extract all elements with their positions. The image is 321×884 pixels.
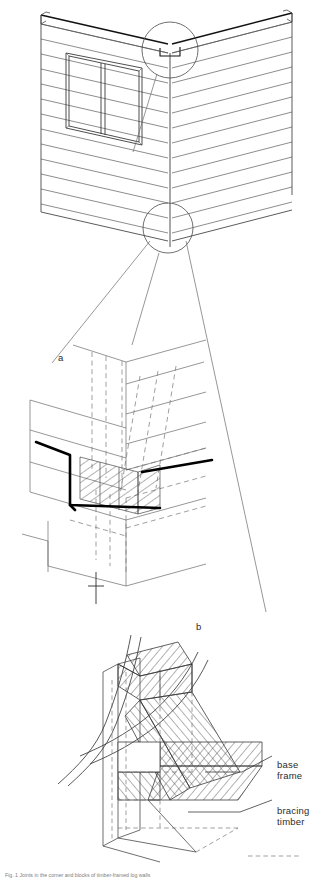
- leader-line-bracing-timber: [188, 800, 272, 812]
- figure-technical-drawing: a b base frame bracing timber Fig. 1 Joi…: [0, 0, 321, 884]
- right-face-log-courses: [172, 22, 292, 233]
- window-opening: [66, 53, 142, 145]
- detail-b-base-outline: [103, 800, 196, 862]
- leader-line-lower-left: [52, 241, 150, 363]
- right-face-bottom-edge: [172, 210, 292, 241]
- base-frame-label: base frame: [277, 760, 302, 781]
- drawing-canvas: [0, 0, 321, 884]
- bracing-timber-label: bracing timber: [277, 806, 310, 827]
- panel-detail-b: [58, 635, 300, 862]
- panel-detail-a: [22, 340, 212, 604]
- leader-line-upper-circle: [133, 74, 157, 152]
- window-frame-shading: [66, 53, 142, 145]
- leader-line-lower-right: [186, 241, 266, 612]
- detail-callout-circle-b: [143, 203, 193, 253]
- wall-top-cap: [41, 13, 292, 44]
- detail-label-b: b: [196, 621, 201, 632]
- detail-a-thin-lines: [22, 340, 206, 586]
- left-face-bottom-edge: [41, 212, 168, 241]
- window-mullion: [101, 63, 105, 135]
- leader-line-lower-mid: [132, 253, 159, 345]
- detail-b-pocket: [118, 742, 160, 772]
- panel-building-overview: [41, 10, 292, 612]
- detail-label-a: a: [58, 352, 63, 363]
- detail-b-top-cap: [118, 642, 192, 700]
- left-face-log-courses: [41, 24, 168, 233]
- figure-caption: Fig. 1 Joints in the corner and blocks o…: [5, 872, 305, 884]
